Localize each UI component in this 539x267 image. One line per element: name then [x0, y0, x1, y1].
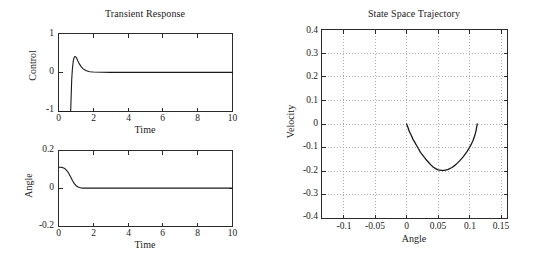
angle-xtick-2: 2 [83, 228, 104, 238]
control-xtick-0: 0 [48, 113, 69, 123]
angle-x-axis-label: Time [115, 239, 175, 250]
panel-angle: Angle 0.2 0 -0.2 0 2 4 6 [0, 135, 270, 267]
angle-xtick-0: 0 [48, 228, 69, 238]
angle-xtick-8: 8 [187, 228, 208, 238]
angle-data-line [59, 167, 233, 188]
phase-xtick-0p15: 0.15 [484, 221, 518, 231]
control-x-axis-label: Time [115, 124, 175, 135]
control-xtick-6: 6 [152, 113, 173, 123]
figure-canvas: Transient Response Control 1 0 -1 [0, 0, 539, 267]
angle-xtick-6: 6 [152, 228, 173, 238]
angle-xtick-10: 10 [222, 228, 243, 238]
panel-control: Transient Response Control 1 0 -1 [0, 0, 270, 135]
control-xtick-8: 8 [187, 113, 208, 123]
control-xtick-2: 2 [83, 113, 104, 123]
phase-xtick-0p1: 0.1 [456, 221, 484, 231]
control-xtick-10: 10 [222, 113, 243, 123]
phase-data-line [407, 124, 478, 170]
phase-xtick-n0p05: -0.05 [356, 221, 394, 231]
phase-xtick-0: 0 [396, 221, 417, 231]
panel-phase: State Space Trajectory Velocity 0.4 0.3 … [270, 0, 539, 267]
control-xtick-4: 4 [118, 113, 139, 123]
control-data-line [59, 57, 233, 112]
phase-xtick-0p05: 0.05 [421, 221, 455, 231]
phase-x-axis-label: Angle [384, 233, 444, 244]
angle-xtick-4: 4 [118, 228, 139, 238]
